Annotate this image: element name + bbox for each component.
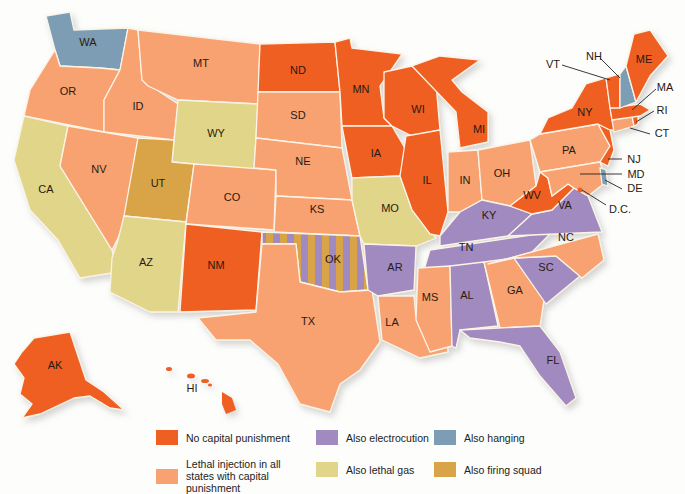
svg-text:WA: WA (79, 36, 97, 48)
svg-text:LA: LA (385, 316, 399, 328)
svg-text:NC: NC (558, 231, 574, 243)
svg-text:NV: NV (91, 163, 107, 175)
svg-text:VA: VA (558, 199, 573, 211)
svg-text:AK: AK (48, 359, 63, 371)
us-map: WA OR CA ID NV MT WY UT AZ CO NM ND SD N… (0, 0, 685, 494)
svg-text:HI: HI (187, 382, 198, 394)
legend-label: No capital punishment (186, 432, 290, 444)
legend-label: Also hanging (464, 432, 525, 444)
svg-text:FL: FL (547, 354, 560, 366)
legend-item-firing-squad: Also firing squad (434, 462, 542, 477)
svg-text:MS: MS (422, 291, 439, 303)
svg-text:DE: DE (627, 182, 642, 194)
svg-text:NE: NE (295, 155, 310, 167)
svg-text:WI: WI (411, 103, 424, 115)
legend-swatch (156, 469, 178, 484)
svg-text:KS: KS (310, 203, 325, 215)
svg-text:MT: MT (193, 57, 209, 69)
legend-label: Also electrocution (346, 432, 429, 444)
svg-text:PA: PA (562, 144, 577, 156)
legend-label: Also firing squad (464, 464, 542, 476)
legend-item-no-capital-punishment: No capital punishment (156, 430, 290, 445)
svg-text:VT: VT (546, 58, 560, 70)
svg-text:AL: AL (460, 289, 473, 301)
svg-text:WY: WY (207, 127, 225, 139)
svg-text:WV: WV (523, 189, 541, 201)
svg-text:MO: MO (381, 202, 399, 214)
svg-text:MA: MA (657, 81, 674, 93)
svg-text:CA: CA (38, 183, 54, 195)
svg-text:ID: ID (133, 100, 144, 112)
svg-text:KY: KY (482, 209, 497, 221)
svg-text:D.C.: D.C. (609, 203, 631, 215)
svg-text:NM: NM (207, 259, 224, 271)
legend-swatch (434, 430, 456, 445)
state-AK[interactable] (14, 332, 124, 418)
legend-label: Also lethal gas (346, 464, 414, 476)
svg-text:IN: IN (460, 174, 471, 186)
svg-text:UT: UT (151, 177, 166, 189)
legend-label: Lethal injection in all states with capi… (186, 458, 306, 494)
svg-text:SC: SC (538, 261, 553, 273)
legend-swatch (316, 462, 338, 477)
svg-text:CO: CO (224, 191, 241, 203)
svg-text:ME: ME (636, 53, 653, 65)
legend-swatch (156, 430, 178, 445)
svg-text:OH: OH (494, 167, 511, 179)
legend-swatch (434, 462, 456, 477)
legend-item-hanging: Also hanging (434, 430, 525, 445)
svg-text:IL: IL (422, 174, 431, 186)
legend: No capital punishment Lethal injection i… (156, 428, 556, 490)
svg-text:TX: TX (301, 315, 316, 327)
state-HI[interactable] (166, 367, 236, 414)
svg-text:GA: GA (507, 284, 524, 296)
svg-text:IA: IA (371, 147, 382, 159)
legend-item-electrocution: Also electrocution (316, 430, 429, 445)
svg-text:SD: SD (290, 109, 305, 121)
svg-text:AR: AR (387, 261, 402, 273)
svg-text:AZ: AZ (139, 256, 153, 268)
svg-text:ND: ND (290, 64, 306, 76)
svg-text:TN: TN (459, 241, 474, 253)
legend-item-lethal-injection: Lethal injection in all states with capi… (156, 458, 306, 494)
svg-text:MD: MD (627, 168, 644, 180)
svg-text:CT: CT (655, 127, 670, 139)
svg-text:NJ: NJ (627, 153, 640, 165)
svg-text:MI: MI (473, 123, 485, 135)
legend-swatch (316, 430, 338, 445)
state-DC[interactable] (578, 188, 583, 193)
state-FL[interactable] (460, 326, 576, 406)
svg-text:RI: RI (657, 104, 668, 116)
svg-text:OK: OK (325, 253, 342, 265)
svg-text:OR: OR (60, 85, 77, 97)
svg-text:NY: NY (577, 106, 593, 118)
legend-item-lethal-gas: Also lethal gas (316, 462, 414, 477)
svg-text:MN: MN (352, 83, 369, 95)
svg-text:NH: NH (586, 50, 602, 62)
